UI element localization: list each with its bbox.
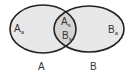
region-label-a-only: Aa xyxy=(14,24,24,35)
set-label-a: A xyxy=(38,61,45,72)
set-label-b: B xyxy=(90,61,97,72)
region-label-intersection-b: Bs xyxy=(62,31,72,42)
region-label-b-only: Ba xyxy=(108,25,118,36)
region-label-intersection-a: As xyxy=(61,17,71,28)
